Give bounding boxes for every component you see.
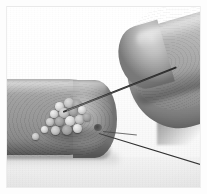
- vignette: [7, 7, 200, 187]
- image-canvas: [0, 0, 207, 194]
- mat-border-right: [200, 6, 201, 188]
- mat-border-bottom: [6, 187, 201, 188]
- photograph: [7, 7, 200, 187]
